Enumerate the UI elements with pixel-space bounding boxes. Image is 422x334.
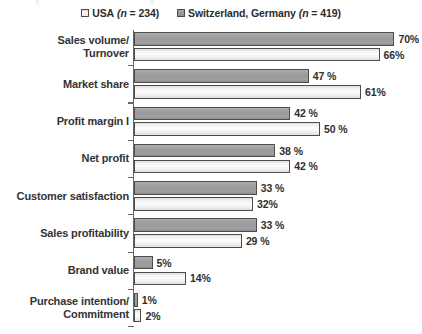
category-label: Purchase intention/Commitment — [0, 295, 129, 320]
bar-row: 32% — [134, 197, 422, 211]
bar-row: 1% — [134, 293, 422, 307]
bar-che_deu — [134, 69, 309, 83]
bar-usa — [134, 234, 242, 248]
bar-row: 70% — [134, 32, 422, 46]
bar-pair: 70%66% — [134, 28, 422, 65]
bar-group: Purchase intention/Commitment1%2% — [0, 289, 422, 326]
bar-value-label: 14% — [190, 272, 211, 284]
bar-value-label: 47 % — [313, 70, 337, 82]
category-label-line: Net profit — [82, 152, 129, 164]
bar-value-label: 29 % — [246, 235, 270, 247]
bar-value-label: 33 % — [261, 219, 285, 231]
bar-group: Sales profitability33 %29 % — [0, 214, 422, 251]
bar-row: 61% — [134, 85, 422, 99]
bar-group: Brand value5%14% — [0, 252, 422, 289]
bar-value-label: 42 % — [294, 160, 318, 172]
category-label: Profit margin I — [0, 115, 129, 128]
bar-pair: 33 %32% — [134, 177, 422, 214]
bar-usa — [134, 122, 320, 136]
bar-pair: 47 %61% — [134, 65, 422, 102]
bar-row: 47 % — [134, 69, 422, 83]
bar-usa — [134, 160, 290, 174]
bar-value-label: 5% — [157, 257, 172, 269]
legend-label-switzerland-germany: Switzerland, Germany — [188, 7, 296, 19]
grouped-bar-chart: USA (n = 234) Switzerland, Germany (n = … — [0, 0, 422, 334]
bar-value-label: 38 % — [279, 145, 303, 157]
legend-swatch-usa-icon — [81, 9, 89, 17]
legend-sample-size-usa: (n = 234) — [117, 7, 159, 19]
category-label-line: Sales profitability — [40, 227, 129, 239]
category-label-line: Purchase intention/ — [30, 295, 129, 307]
bar-usa — [134, 309, 141, 323]
category-label: Brand value — [0, 264, 129, 277]
bar-usa — [134, 48, 380, 62]
bar-usa — [134, 272, 186, 286]
bar-che_deu — [134, 144, 275, 158]
bar-group: Profit margin I42 %50 % — [0, 103, 422, 140]
bar-group: Net profit38 %42 % — [0, 140, 422, 177]
bar-pair: 1%2% — [134, 289, 422, 326]
bar-value-label: 32% — [257, 198, 278, 210]
bar-row: 14% — [134, 272, 422, 286]
bar-row: 5% — [134, 256, 422, 270]
bar-group-list: Sales volume/Turnover70%66%Market share4… — [0, 28, 422, 326]
bar-usa — [134, 197, 253, 211]
bar-group: Sales volume/Turnover70%66% — [0, 28, 422, 65]
bar-value-label: 66% — [384, 49, 405, 61]
legend-entry-usa: USA (n = 234) — [81, 7, 159, 19]
legend-sample-size-switzerland-germany: (n = 419) — [299, 7, 341, 19]
legend-label-usa: USA — [92, 7, 114, 19]
bar-pair: 42 %50 % — [134, 103, 422, 140]
bar-row: 42 % — [134, 160, 422, 174]
category-label-line: Profit margin I — [57, 115, 129, 127]
category-label: Customer satisfaction — [0, 190, 129, 203]
bar-value-label: 42 % — [294, 107, 318, 119]
category-label-line: Sales volume/ — [58, 34, 129, 46]
bar-pair: 38 %42 % — [134, 140, 422, 177]
axis-tick — [128, 326, 134, 327]
bar-value-label: 70% — [398, 33, 419, 45]
bar-value-label: 33 % — [261, 182, 285, 194]
bar-che_deu — [134, 256, 153, 270]
bar-che_deu — [134, 107, 290, 121]
bar-che_deu — [134, 293, 138, 307]
bar-che_deu — [134, 181, 257, 195]
legend-entry-switzerland-germany: Switzerland, Germany (n = 419) — [177, 7, 341, 19]
bar-che_deu — [134, 218, 257, 232]
category-label: Market share — [0, 78, 129, 91]
bar-pair: 33 %29 % — [134, 214, 422, 251]
category-label-line: Turnover — [0, 47, 129, 60]
category-label-line: Customer satisfaction — [17, 190, 129, 202]
bar-value-label: 2% — [145, 310, 160, 322]
legend-swatch-switzerland-germany-icon — [177, 9, 185, 17]
bar-row: 42 % — [134, 107, 422, 121]
category-label: Sales profitability — [0, 227, 129, 240]
category-label: Sales volume/Turnover — [0, 34, 129, 59]
bar-group: Customer satisfaction33 %32% — [0, 177, 422, 214]
scan-artifact-strip — [0, 0, 422, 5]
bar-row: 33 % — [134, 181, 422, 195]
chart-legend: USA (n = 234) Switzerland, Germany (n = … — [0, 7, 422, 19]
bar-row: 66% — [134, 48, 422, 62]
category-label: Net profit — [0, 152, 129, 165]
category-label-line: Commitment — [0, 308, 129, 321]
plot-area: Sales volume/Turnover70%66%Market share4… — [0, 28, 422, 328]
bar-che_deu — [134, 32, 394, 46]
bar-row: 33 % — [134, 218, 422, 232]
bar-row: 2% — [134, 309, 422, 323]
bar-pair: 5%14% — [134, 252, 422, 289]
bar-usa — [134, 85, 361, 99]
bar-row: 29 % — [134, 234, 422, 248]
bar-row: 38 % — [134, 144, 422, 158]
bar-value-label: 1% — [142, 294, 157, 306]
category-label-line: Market share — [63, 78, 129, 90]
category-label-line: Brand value — [68, 264, 129, 276]
bar-value-label: 61% — [365, 86, 386, 98]
bar-value-label: 50 % — [324, 123, 348, 135]
bar-group: Market share47 %61% — [0, 65, 422, 102]
bar-row: 50 % — [134, 122, 422, 136]
